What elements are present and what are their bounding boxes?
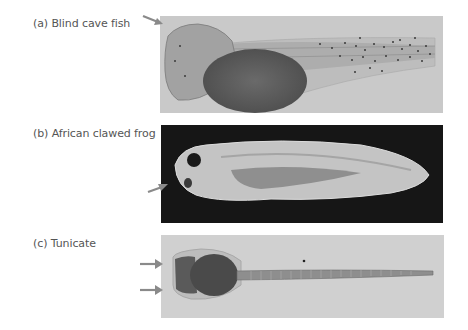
arrow-icon-panel-b bbox=[147, 181, 169, 195]
arrow-icon-panel-a bbox=[142, 13, 164, 27]
panel-b-image-african-clawed-frog bbox=[161, 125, 443, 223]
arrow-icon-panel-c-lower bbox=[140, 284, 164, 296]
panel-a-image-blind-cave-fish bbox=[160, 16, 443, 113]
panel-b-label: (b) African clawed frog bbox=[33, 127, 156, 140]
panel-c-image-tunicate bbox=[161, 235, 444, 318]
arrow-icon-panel-c-upper bbox=[140, 258, 164, 270]
panel-a-label: (a) Blind cave fish bbox=[33, 17, 130, 30]
panel-c-label: (c) Tunicate bbox=[33, 237, 96, 250]
